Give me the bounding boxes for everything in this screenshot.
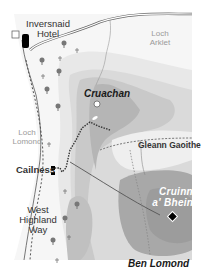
label-hotel: Hotel bbox=[28, 29, 68, 39]
label-loch-lomond-2: Lomond bbox=[10, 138, 44, 147]
parking-icon bbox=[12, 31, 19, 38]
label-cruinn: Cruinn bbox=[150, 186, 202, 198]
label-cruachan: Cruachan bbox=[84, 89, 130, 99]
label-cailness: Cailness bbox=[16, 165, 55, 175]
viewpoint-icon bbox=[94, 101, 100, 107]
label-a-bheinn: a' Bheinn bbox=[150, 197, 202, 209]
label-loch-arklet-2: Arklet bbox=[145, 39, 175, 48]
label-way: Way bbox=[18, 225, 58, 235]
label-gleann-gaoithe: Gleann Gaoithe bbox=[138, 141, 201, 150]
label-ben-lomond: Ben Lomond bbox=[128, 259, 189, 269]
